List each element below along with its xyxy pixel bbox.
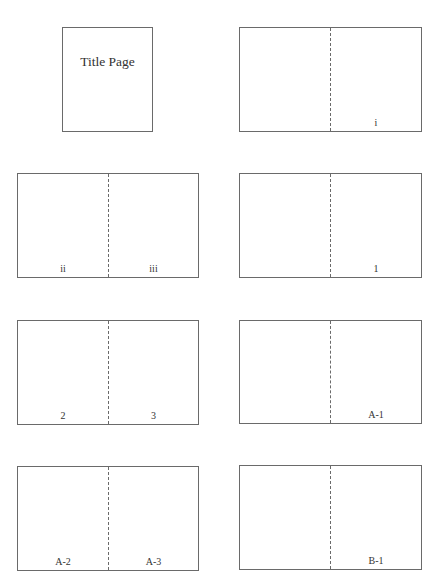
title-page-label: Title Page: [63, 54, 152, 70]
right-page: B-1: [331, 466, 421, 569]
page-number: 1: [331, 263, 421, 274]
right-page: 3: [109, 321, 198, 424]
page-number: A-1: [331, 409, 421, 420]
page-number: i: [331, 117, 421, 128]
spread-i: i: [239, 27, 422, 132]
spread-ii-iii: ii iii: [17, 173, 199, 278]
spread-1: 1: [239, 173, 422, 278]
page-number: iii: [109, 263, 198, 274]
spread-b-1: B-1: [239, 465, 422, 570]
page-number: ii: [18, 263, 108, 274]
left-page: [240, 466, 330, 569]
spread-a-1: A-1: [239, 320, 422, 424]
left-page: 2: [18, 321, 108, 424]
page-number: A-2: [18, 556, 108, 567]
left-page: ii: [18, 174, 108, 277]
right-page: A-1: [331, 321, 421, 423]
page-number: A-3: [109, 556, 198, 567]
page-number: 3: [109, 410, 198, 421]
right-page: 1: [331, 174, 421, 277]
right-page: A-3: [109, 467, 198, 570]
spread-a-2-a-3: A-2 A-3: [17, 466, 199, 571]
page-number: 2: [18, 410, 108, 421]
left-page: A-2: [18, 467, 108, 570]
left-page: [240, 174, 330, 277]
left-page: [240, 321, 330, 423]
left-page: [240, 28, 330, 131]
right-page: iii: [109, 174, 198, 277]
title-page: Title Page: [62, 27, 153, 132]
spread-2-3: 2 3: [17, 320, 199, 425]
right-page: i: [331, 28, 421, 131]
page-number: B-1: [331, 555, 421, 566]
